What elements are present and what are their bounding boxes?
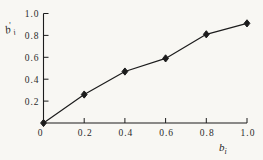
x-axis-tick-label: 0.6 [159,128,174,138]
x-axis-tick-label: 1.0 [241,128,256,138]
y-axis-tick-label: 0.6 [25,53,40,63]
data-point-marker [163,55,169,62]
x-axis-tick-label: 0.8 [200,128,215,138]
y-axis-tick-label: 0.8 [25,31,40,41]
y-axis-tick-label: 0.2 [25,97,40,107]
y-axis-tick-label: 1.0 [25,9,40,19]
data-point-marker [122,68,128,75]
plot-canvas: 0.20.40.60.81.00.20.40.60.81.00 [0,0,263,160]
x-axis-tick-label: 0.2 [78,128,93,138]
origin-tick-label: 0 [38,128,44,138]
data-point-marker [244,20,250,27]
x-axis-tick-label: 0.4 [118,128,133,138]
line-chart-figure: 0.20.40.60.81.00.20.40.60.81.00 b′i bi [0,0,263,160]
data-point-marker [81,91,87,98]
series-line [44,23,248,123]
axes [44,14,248,124]
data-point-marker [203,31,209,38]
x-axis-label: bi [219,142,227,156]
x-axis-label-subscript: i [225,147,227,156]
y-axis-tick-label: 0.4 [25,75,40,85]
data-point-marker [41,119,47,126]
